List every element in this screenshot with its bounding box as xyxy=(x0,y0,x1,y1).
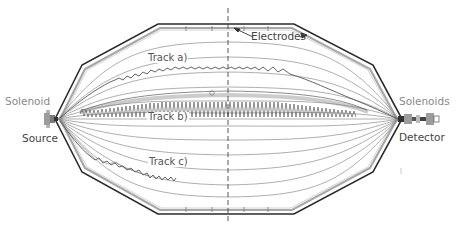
electrodes-label: Electrodes xyxy=(251,31,306,42)
source-solenoid-assembly xyxy=(44,110,58,128)
detector-label: Detector xyxy=(399,132,445,143)
magnetic-field-lines xyxy=(58,42,399,197)
solenoids-right-label: Solenoids xyxy=(399,96,450,107)
track-a-label: Track a) xyxy=(147,53,188,63)
track-b-label: Track b) xyxy=(147,112,189,122)
track-c-label: Track c) xyxy=(148,157,189,167)
source-label: Source xyxy=(22,133,58,144)
solenoid-left-label: Solenoid xyxy=(5,96,50,107)
spectrometer-diagram xyxy=(0,0,458,228)
detector-solenoid-assembly xyxy=(398,113,439,125)
